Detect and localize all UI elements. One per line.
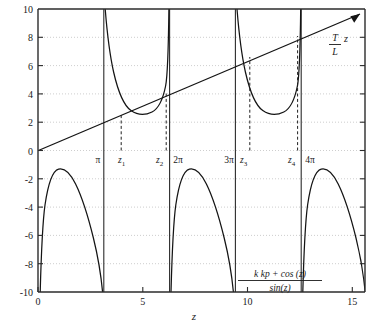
root-subscript: 4 [292, 160, 296, 168]
y-tick-label: 4 [28, 89, 33, 100]
x-tick-label: 0 [36, 296, 41, 307]
y-tick-label: -8 [25, 259, 33, 270]
y-tick-label: 8 [28, 32, 33, 43]
y-tick-label: 10 [23, 4, 33, 15]
linear-label-variable: z [343, 33, 348, 44]
curve-label-numerator: k kp + cos (z) [254, 269, 306, 280]
x-axis-tick-labels: 0 5 10 15 [36, 296, 358, 307]
y-tick-label: -6 [25, 230, 33, 241]
linear-label-denominator: L [331, 46, 338, 57]
y-tick-label: 6 [28, 61, 33, 72]
y-tick-label: 0 [28, 146, 33, 157]
y-tick-label: -4 [25, 202, 33, 213]
plot-figure: 10 8 6 4 2 0 -2 -4 -6 -8 -10 0 5 10 15 z… [0, 0, 387, 327]
x-tick-label: 15 [347, 296, 357, 307]
root-subscript: 2 [160, 160, 164, 168]
x-tick-label: 10 [243, 296, 253, 307]
root-subscript: 1 [122, 160, 126, 168]
y-axis-tick-labels: 10 8 6 4 2 0 -2 -4 -6 -8 -10 [20, 4, 33, 298]
plot-svg: 10 8 6 4 2 0 -2 -4 -6 -8 -10 0 5 10 15 z… [0, 0, 387, 327]
plot-background [38, 9, 365, 292]
asymptote-label-pi: π [96, 155, 101, 165]
x-tick-label: 5 [140, 296, 145, 307]
y-tick-label: -10 [20, 287, 33, 298]
y-tick-label: 2 [28, 117, 33, 128]
asymptote-label-four-pi: 4π [305, 155, 315, 165]
asymptote-label-two-pi: 2π [173, 155, 183, 165]
y-tick-label: -2 [25, 174, 33, 185]
x-axis-label: z [191, 310, 197, 322]
curve-label-denominator: sin(z) [269, 283, 290, 294]
root-subscript: 3 [244, 160, 248, 168]
asymptote-label-three-pi: 3π [224, 155, 234, 165]
